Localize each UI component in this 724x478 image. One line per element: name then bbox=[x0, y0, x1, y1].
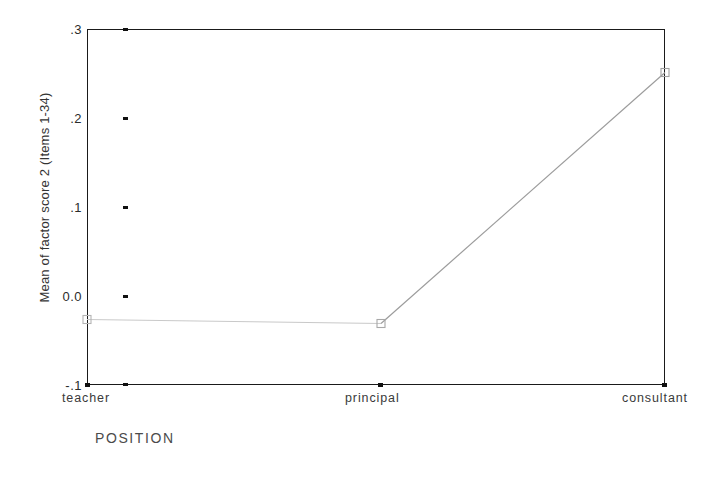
series-layer bbox=[87, 29, 665, 385]
y-tick-label-2: .1 bbox=[70, 201, 82, 214]
series-segment-2 bbox=[381, 73, 665, 324]
y-tick-label-3: 0.0 bbox=[62, 290, 82, 303]
x-tick-label-principal: principal bbox=[345, 392, 400, 405]
x-axis-title: POSITION bbox=[95, 430, 175, 446]
x-tick-mark-teacher bbox=[85, 383, 90, 387]
series-segment-1 bbox=[87, 320, 381, 324]
y-axis-title: Mean of factor score 2 (Items 1-34) bbox=[37, 48, 52, 348]
x-tick-mark-principal bbox=[378, 383, 383, 387]
line-chart: .3 .2 .1 0.0 -.1 Mean of factor score 2 … bbox=[0, 0, 724, 478]
y-tick-label-0: .3 bbox=[70, 23, 82, 36]
y-tick-label-1: .2 bbox=[70, 112, 82, 125]
x-tick-mark-consultant bbox=[662, 383, 667, 387]
x-tick-label-consultant: consultant bbox=[622, 392, 688, 405]
x-tick-label-teacher: teacher bbox=[62, 392, 110, 405]
